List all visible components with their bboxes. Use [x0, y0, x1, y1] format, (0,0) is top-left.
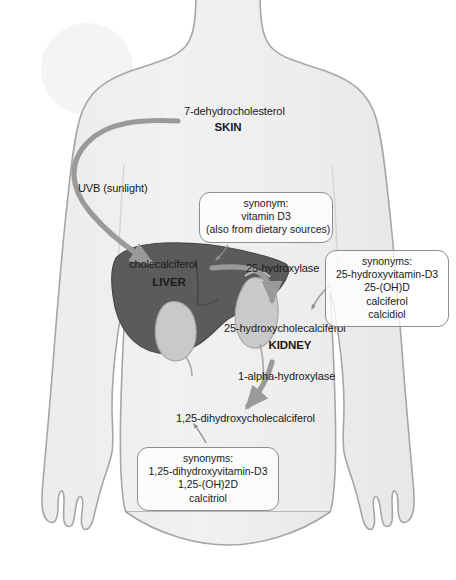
calcitriol-callout-line-2: 1,25-dihydroxyvitamin-D3: [144, 465, 272, 478]
vitamin-d3-callout-line-1: synonym:: [206, 197, 326, 210]
calcitriol-callout-line-1: synonyms:: [144, 452, 272, 465]
label-cholecalciferol: cholecalciferol: [129, 258, 197, 271]
diagram-canvas: 7-dehydrocholesterol SKIN UVB (sunlight)…: [0, 0, 456, 580]
vitamin-d3-callout: synonym: vitamin D3 (also from dietary s…: [199, 192, 333, 243]
vitamin-d3-callout-line-2: vitamin D3: [206, 210, 326, 223]
calcitriol-callout-line-4: calcitriol: [144, 492, 272, 505]
calcidiol-callout-line-2: 25-hydroxyvitamin-D3: [332, 268, 442, 281]
calcidiol-callout-line-1: synonyms:: [332, 255, 442, 268]
calcidiol-callout: synonyms: 25-hydroxyvitamin-D3 25-(OH)D …: [325, 250, 449, 327]
label-uvb-sunlight: UVB (sunlight): [78, 182, 148, 195]
label-25-hydroxycholecalciferol: 25-hydroxycholecalciferol: [224, 322, 346, 335]
label-1-alpha-hydroxylase: 1-alpha-hydroxylase: [238, 370, 335, 383]
label-liver: LIVER: [152, 276, 185, 289]
label-1-25-dihydroxycholecalciferol: 1,25-dihydroxycholecalciferol: [176, 412, 315, 425]
label-skin: SKIN: [214, 121, 241, 134]
vitamin-d3-callout-line-3: (also from dietary sources): [206, 223, 326, 236]
label-kidney: KIDNEY: [269, 339, 312, 352]
label-25-hydroxylase: 25-hydroxylase: [246, 262, 319, 275]
calcitriol-callout: synonyms: 1,25-dihydroxyvitamin-D3 1,25-…: [137, 447, 279, 511]
calcidiol-callout-line-4: calciferol: [332, 295, 442, 308]
calcidiol-callout-line-3: 25-(OH)D: [332, 281, 442, 294]
calcidiol-callout-line-5: calcidiol: [332, 308, 442, 321]
calcitriol-callout-line-3: 1,25-(OH)2D: [144, 478, 272, 491]
label-7-dehydrocholesterol: 7-dehydrocholesterol: [184, 105, 285, 118]
